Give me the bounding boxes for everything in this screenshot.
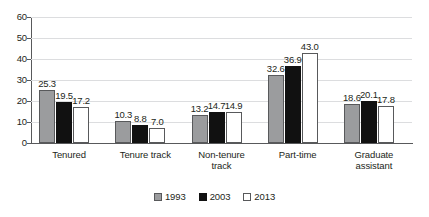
y-axis-tick [27,38,31,39]
y-axis-tick-label: 30 [3,75,27,85]
bar-value-label: 36.9 [282,55,304,65]
category-label: Part-time [260,149,336,160]
legend-label: 2003 [210,192,231,202]
legend-label: 1993 [165,192,186,202]
y-axis-tick [27,143,31,144]
bar-value-label: 32.6 [265,64,287,74]
bar [268,75,284,143]
bar [344,104,360,143]
swatch-white-icon [243,193,251,201]
bar-value-label: 25.3 [36,79,58,89]
bar [378,106,394,143]
y-axis-tick-label: 50 [3,33,27,43]
gridline [31,80,412,81]
y-axis-tick [27,80,31,81]
bar [302,53,318,143]
bar [285,66,301,143]
bar [192,115,208,143]
category-label: Non-tenuretrack [183,149,259,171]
y-axis-tick [27,59,31,60]
category-label: Tenured [31,149,107,160]
plot-area: 25.319.517.210.38.87.013.214.714.932.636… [31,17,412,143]
bar-value-label: 43.0 [299,42,321,52]
bar-value-label: 17.2 [70,96,92,106]
bar [73,107,89,143]
y-axis-tick [27,17,31,18]
category-label: Graduateassistant [336,149,412,171]
y-axis-tick-label: 20 [3,96,27,106]
legend-item[interactable]: 1993 [154,192,186,202]
swatch-gray-icon [154,193,162,201]
bar [115,121,131,143]
legend-label: 2013 [254,192,275,202]
bar [56,102,72,143]
y-axis-tick-label: 0 [3,138,27,148]
bar-value-label: 17.8 [375,95,397,105]
y-axis-tick-label: 40 [3,54,27,64]
legend-item[interactable]: 2013 [243,192,275,202]
bar [149,128,165,143]
bar [226,112,242,143]
bar [132,125,148,143]
category-label: Tenure track [107,149,183,160]
bar-value-label: 14.9 [223,101,245,111]
legend-item[interactable]: 2003 [199,192,231,202]
y-axis-tick [27,122,31,123]
y-axis-tick-label: 10 [3,117,27,127]
y-axis-tick [27,101,31,102]
swatch-black-icon [199,193,207,201]
bar [361,101,377,143]
gridline [31,59,412,60]
y-axis-tick-label: 60 [3,12,27,22]
bar-chart: 25.319.517.210.38.87.013.214.714.932.636… [0,0,429,217]
bar [209,112,225,143]
bar-value-label: 7.0 [146,117,168,127]
chart-legend: 199320032013 [0,192,429,202]
x-axis-line [31,143,413,144]
gridline [31,17,412,18]
gridline [31,38,412,39]
